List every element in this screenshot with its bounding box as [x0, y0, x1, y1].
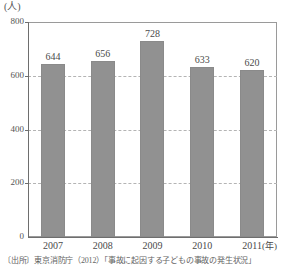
- bar-group: 644: [28, 22, 78, 237]
- y-axis-tick-label: 0: [20, 232, 25, 241]
- bar-chart: (人) 0200400600800 644656728633620 200720…: [0, 0, 291, 268]
- bar-value-label: 728: [145, 28, 160, 39]
- bar: [91, 61, 115, 237]
- x-axis-tick-label: 2007: [43, 240, 63, 252]
- y-axis-tick-label: 200: [11, 178, 25, 187]
- x-axis-line: [28, 237, 278, 238]
- source-note: 〔出所〕東京消防庁（2012）「事故に起因する子どもの事故の発生状況」: [3, 256, 256, 266]
- bar-value-label: 656: [95, 48, 110, 59]
- bar: [240, 70, 264, 237]
- y-axis-tick-label: 600: [11, 71, 25, 80]
- bar: [140, 41, 164, 237]
- bar-series: 644656728633620: [28, 22, 277, 237]
- bar-value-label: 620: [245, 57, 260, 68]
- bar-group: 620: [227, 22, 277, 237]
- bar-value-label: 644: [45, 51, 60, 62]
- bar: [190, 67, 214, 237]
- bar-group: 728: [128, 22, 178, 237]
- bar-group: 633: [177, 22, 227, 237]
- y-axis-tick-label: 800: [11, 17, 25, 26]
- y-axis-tick-label: 400: [11, 125, 25, 134]
- x-axis-tick-label: 2009: [143, 240, 163, 252]
- y-axis-unit-label: (人): [4, 1, 21, 13]
- x-axis-tick-label: 2010: [192, 240, 212, 252]
- x-axis-tick-label: 2008: [93, 240, 113, 252]
- x-axis-tick-label: 2011: [242, 240, 262, 252]
- bar-value-label: 633: [195, 54, 210, 65]
- bar-group: 656: [78, 22, 128, 237]
- x-axis-unit-label: (年): [262, 240, 277, 252]
- bar: [41, 64, 65, 237]
- x-axis-tick-labels: 20072008200920102011: [28, 240, 277, 254]
